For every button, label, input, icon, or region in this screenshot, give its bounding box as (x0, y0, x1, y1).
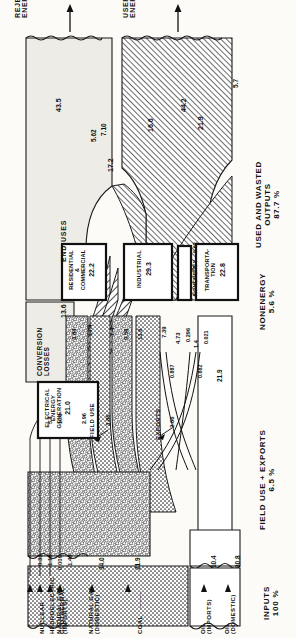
input-value-coal: 21.9 (134, 557, 141, 570)
summary-used-wasted-label-1: USED AND WASTED (254, 161, 263, 248)
input-label-oil-domestic-2: (DOMESTIC) (230, 594, 236, 634)
value-elec-small-a: 5.4 (47, 417, 53, 425)
value-useful-resid: 16.6 (147, 118, 154, 132)
value-exports: 2.66 (169, 416, 175, 428)
label-conversion-losses-1: CONVERSION (36, 327, 43, 376)
value-field-use: 3.85 (105, 414, 111, 426)
label-useful-energy-line1: USEFUL (122, 0, 129, 18)
box-residential-line-3: COMMERCIAL (80, 250, 86, 291)
label-end-uses: END USES (60, 220, 67, 262)
input-band-natural-gas-domestic (28, 472, 150, 559)
box-transportation-value: 22.8 (219, 263, 226, 277)
value-elec-industrial: 17.2 (107, 158, 114, 172)
value-resid-in-b: 10.4 (87, 324, 93, 336)
input-value-oil-domestic: 30.8 (234, 555, 241, 568)
summary-inputs-label: INPUTS (262, 586, 271, 620)
value-trans-small: 0.021 (203, 331, 209, 345)
input-value-oil-imports: 10.4 (210, 555, 217, 568)
label-rejected-energy-line1: REJECTED (14, 0, 21, 18)
summary-used-wasted-value: 87.7 % (272, 190, 281, 219)
value-useful-transport: 5.7 (232, 79, 239, 88)
flow-transportation-inputs (198, 316, 232, 560)
value-elec-resid2: 7.10 (100, 123, 107, 136)
value-conversion-losses: 13.6 (60, 304, 67, 318)
summary-inputs-value: 100 % (271, 590, 280, 617)
value-rejected-total: 43.5 (55, 98, 62, 112)
summary-used-wasted-label-2: OUTPUTS (263, 183, 272, 225)
input-value-natural-gas-domestic: 34.0 (98, 557, 105, 570)
diagram-canvas (0, 0, 296, 638)
value-trans-in: 21.9 (216, 369, 223, 382)
box-nonenergy-label: NONENERGY (192, 259, 198, 296)
input-label-coal: COAL (137, 615, 143, 634)
box-industrial-line-1: INDUSTRIAL (136, 250, 142, 288)
value-cross-a: 0.887 (169, 365, 175, 379)
input-value-natural-gas-imports: 1.48 (67, 554, 73, 566)
value-elec-small-b: 10.9 (57, 414, 63, 425)
coal-leader: ——— (137, 591, 143, 611)
value-useful-total: 44.2 (180, 98, 187, 112)
summary-nonenergy-label: NONENERGY (258, 273, 267, 330)
summary-field-exports-value: 6.5 % (267, 468, 276, 491)
box-industrial-value: 29.3 (145, 262, 152, 276)
value-cross-b: 0.882 (197, 365, 203, 379)
box-transportation-line-2: TION (210, 263, 216, 276)
summary-nonenergy-value: 5.6 % (267, 290, 276, 313)
label-conversion-losses-2: LOSSES (43, 347, 50, 376)
summary-field-exports-label: FIELD USE + EXPORTS (258, 429, 267, 530)
box-nonenergy-value: 5.62 (192, 242, 198, 253)
sankey-diagram-figure: REJECTED ENERGY USEFUL ENERGY 43.5 44.2 … (0, 0, 296, 638)
value-field-use2: 2.96 (81, 413, 87, 424)
value-resid-in-a: 3.84 (71, 328, 77, 340)
input-label-natural-gas-imports-2: (IMPORTS) (62, 586, 68, 634)
box-residential-value: 22.2 (88, 263, 95, 277)
label-rejected-energy-line2: ENERGY (21, 0, 28, 18)
input-label-natural-gas-domestic-2: (DOMESTIC) (94, 586, 100, 634)
value-ind-in-a: 13.6 (137, 328, 143, 340)
input-label-oil-imports-2: (IMPORTS) (206, 599, 212, 634)
label-useful-energy-line2: ENERGY (129, 0, 136, 18)
value-useful-industrial: 21.9 (197, 116, 204, 130)
